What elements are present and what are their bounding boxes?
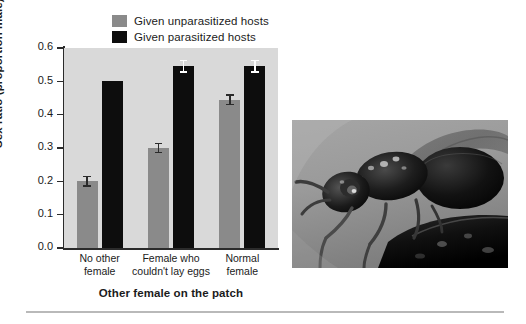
x-axis-category-label: No otherfemale bbox=[60, 252, 139, 277]
legend-item-unparasitized: Given unparasitized hosts bbox=[112, 14, 269, 28]
error-bar-cap bbox=[83, 176, 91, 178]
chart-legend: Given unparasitized hosts Given parasiti… bbox=[112, 14, 269, 44]
x-axis-title: Other female on the patch bbox=[64, 287, 278, 299]
bar-group bbox=[219, 48, 265, 248]
bottom-divider-rule bbox=[26, 311, 504, 313]
error-bar-cap bbox=[155, 143, 163, 145]
y-axis-title: Sex ratio (proportion male) bbox=[0, 0, 4, 148]
bar bbox=[244, 66, 265, 248]
error-bar-cap bbox=[83, 185, 91, 187]
error-bar bbox=[229, 94, 231, 105]
x-axis-category-line: Normal bbox=[203, 252, 282, 265]
x-axis-category-line: couldn't lay eggs bbox=[131, 265, 210, 278]
error-bar bbox=[86, 176, 88, 187]
plot-area bbox=[64, 48, 278, 248]
x-axis-category-line: Female who bbox=[131, 252, 210, 265]
y-axis-tick-label: 0.1 bbox=[38, 207, 53, 219]
y-axis-tick-label: 0.5 bbox=[38, 74, 53, 86]
bar bbox=[77, 181, 98, 248]
error-bar bbox=[254, 60, 256, 73]
legend-label-unparasitized: Given unparasitized hosts bbox=[134, 15, 269, 28]
x-axis-category-label: Female whocouldn't lay eggs bbox=[131, 252, 210, 277]
y-axis-tick-label: 0.3 bbox=[38, 140, 53, 152]
error-bar-cap bbox=[226, 104, 234, 106]
x-axis-category-line: female bbox=[203, 265, 282, 278]
wasp-photograph bbox=[292, 120, 508, 268]
error-bar-cap bbox=[251, 60, 259, 62]
error-bar-cap bbox=[251, 71, 259, 73]
y-axis-tick-label: 0.4 bbox=[38, 107, 53, 119]
error-bar bbox=[158, 143, 160, 154]
y-axis-tick-mark: 0.0 bbox=[57, 247, 63, 249]
legend-swatch-parasitized bbox=[112, 31, 127, 43]
y-axis-tick-label: 0.0 bbox=[38, 240, 53, 252]
figure: Given unparasitized hosts Given parasiti… bbox=[0, 0, 526, 324]
error-bar bbox=[183, 60, 185, 73]
bar-group bbox=[148, 48, 194, 248]
x-axis-category-label: Normalfemale bbox=[203, 252, 282, 277]
bar bbox=[219, 100, 240, 248]
bar bbox=[102, 81, 123, 248]
y-axis-tick-mark: 0.3 bbox=[57, 147, 63, 149]
y-axis-tick-mark: 0.5 bbox=[57, 81, 63, 83]
legend-swatch-unparasitized bbox=[112, 15, 127, 27]
error-bar-cap bbox=[155, 152, 163, 154]
x-axis-category-line: No other bbox=[60, 252, 139, 265]
error-bar-cap bbox=[226, 94, 234, 96]
y-axis-tick-mark: 0.1 bbox=[57, 214, 63, 216]
error-bar-cap bbox=[180, 71, 188, 73]
y-axis-tick-mark: 0.6 bbox=[57, 47, 63, 49]
y-axis-tick-mark: 0.4 bbox=[57, 114, 63, 116]
y-axis-tick-label: 0.2 bbox=[38, 174, 53, 186]
y-axis-tick-label: 0.6 bbox=[38, 40, 53, 52]
error-bar-cap bbox=[180, 60, 188, 62]
x-axis-line bbox=[63, 248, 279, 250]
x-axis-category-line: female bbox=[60, 265, 139, 278]
legend-label-parasitized: Given parasitized hosts bbox=[134, 31, 256, 44]
bar bbox=[173, 66, 194, 248]
bar-group bbox=[77, 48, 123, 248]
y-axis-tick-mark: 0.2 bbox=[57, 181, 63, 183]
legend-item-parasitized: Given parasitized hosts bbox=[112, 30, 269, 44]
bar bbox=[148, 148, 169, 248]
